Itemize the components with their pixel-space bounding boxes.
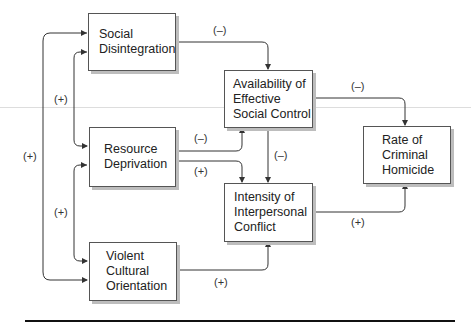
node-text-line: Disintegration xyxy=(99,42,175,57)
node-text-line: Effective xyxy=(233,92,311,107)
node-text-line: Orientation xyxy=(106,279,167,294)
node-text-line: Homicide xyxy=(382,163,434,178)
node-social-disintegration: SocialDisintegration xyxy=(88,13,176,71)
node-violent-cultural-orientation: ViolentCulturalOrientation xyxy=(89,242,177,301)
node-text-line: Interpersonal xyxy=(234,205,307,220)
edge-label-rd-asc: (–) xyxy=(194,132,207,144)
edge-label-vco-iic: (+) xyxy=(214,276,228,288)
causal-diagram: SocialDisintegration ResourceDeprivation… xyxy=(0,0,471,325)
node-text-line: Rate of xyxy=(382,133,434,148)
node-text-line: Resource xyxy=(104,142,167,157)
edge-label-asc-rch: (–) xyxy=(351,80,364,92)
edge-label-sd-asc: (–) xyxy=(213,24,226,36)
edge-label-rd-iic: (+) xyxy=(194,165,208,177)
edge-label-sd-vco: (+) xyxy=(23,150,37,162)
node-text-line: Violent xyxy=(106,249,167,264)
node-text-line: Intensity of xyxy=(234,190,307,205)
edge-label-sd-rd: (+) xyxy=(54,93,68,105)
node-resource-deprivation: ResourceDeprivation xyxy=(89,127,176,187)
edge-label-iic-rch: (+) xyxy=(351,216,365,228)
node-text-line: Deprivation xyxy=(104,157,167,172)
node-text-line: Conflict xyxy=(234,220,307,235)
node-text-line: Availability of xyxy=(233,77,311,92)
node-availability-social-control: Availability ofEffectiveSocial Control xyxy=(224,70,313,128)
node-rate-homicide: Rate ofCriminalHomicide xyxy=(363,126,451,184)
bottom-rule xyxy=(25,320,455,322)
edge-label-rd-vco: (+) xyxy=(54,206,68,218)
node-text-line: Social Control xyxy=(233,107,311,122)
node-intensity-conflict: Intensity ofInterpersonalConflict xyxy=(224,183,313,242)
node-text-line: Social xyxy=(99,27,175,42)
node-text-line: Criminal xyxy=(382,148,434,163)
edge-label-asc-iic: (–) xyxy=(274,149,287,161)
node-text-line: Cultural xyxy=(106,264,167,279)
